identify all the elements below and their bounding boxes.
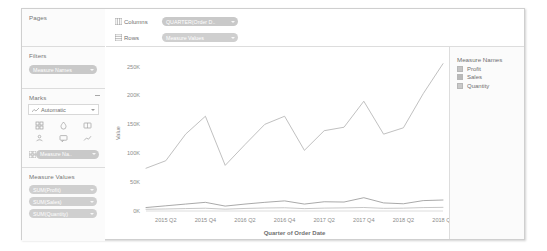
x-axis-tick-label: 2018 Q4: [432, 217, 449, 223]
path-button[interactable]: [75, 132, 99, 145]
legend-item[interactable]: Sales: [450, 72, 524, 81]
label-button[interactable]: [75, 119, 99, 132]
y-axis-tick-label: 250K: [127, 64, 140, 70]
columns-pill-quarter-order-date[interactable]: QUARTER(Order D..: [162, 17, 238, 26]
measure-value-pill-label: SUM(Profit): [33, 187, 61, 193]
filter-pill-measure-names[interactable]: Measure Names: [29, 65, 97, 74]
measure-value-pill[interactable]: SUM(Profit): [29, 185, 97, 194]
tooltip-button[interactable]: [52, 132, 76, 145]
rows-shelf-label: Rows: [124, 35, 162, 41]
color-swatch-icon: [28, 150, 36, 158]
marks-color-pill-label: Measure Na..: [40, 151, 72, 157]
color-button[interactable]: [28, 119, 52, 132]
columns-icon: [114, 18, 122, 26]
pages-card: Pages: [22, 9, 105, 47]
rows-shelf[interactable]: Rows Measure Values: [114, 31, 520, 44]
color-legend: Measure Names Profit Sales Quantity: [449, 47, 524, 239]
x-axis-tick-label: 2018 Q2: [393, 217, 414, 223]
legend-swatch: [457, 66, 463, 72]
measure-value-pill-label: SUM(Sales): [33, 199, 62, 205]
legend-swatch: [457, 74, 463, 80]
measure-values-card-title: Measure Values: [22, 168, 105, 180]
chevron-down-icon[interactable]: [90, 213, 94, 215]
legend-item-label: Sales: [467, 74, 482, 80]
pages-card-title: Pages: [22, 9, 105, 21]
tableau-worksheet-window: Pages Filters Measure Names Marks Automa…: [21, 8, 525, 240]
measure-value-pill[interactable]: SUM(Sales): [29, 197, 97, 206]
chevron-down-icon[interactable]: [90, 69, 94, 71]
marks-card-title: Marks: [22, 89, 105, 101]
legend-item-label: Profit: [467, 66, 481, 72]
legend-item[interactable]: Quantity: [450, 80, 524, 89]
marks-encoding-buttons: [28, 119, 99, 145]
marks-type-label: Automatic: [41, 107, 66, 113]
line-chart[interactable]: 0K50K100K150K200K250KValue2015 Q22015 Q4…: [106, 47, 449, 239]
marks-type-dropdown[interactable]: Automatic: [28, 104, 99, 115]
shelf-area: Columns QUARTER(Order D.. Rows Measure V…: [106, 9, 524, 47]
series-line[interactable]: [146, 64, 443, 169]
detail-button[interactable]: [28, 132, 52, 145]
measure-value-pill[interactable]: SUM(Quantity): [29, 209, 97, 218]
filters-card-title: Filters: [22, 47, 105, 59]
legend-swatch: [457, 83, 463, 89]
chevron-down-icon[interactable]: [90, 201, 94, 203]
rows-pill-measure-values[interactable]: Measure Values: [162, 33, 238, 42]
legend-item[interactable]: Profit: [450, 63, 524, 72]
legend-title: Measure Names: [450, 47, 524, 63]
line-mark-icon: [32, 108, 39, 113]
y-axis-title: Value: [115, 126, 121, 140]
series-line[interactable]: [146, 207, 443, 209]
chevron-down-icon[interactable]: [90, 189, 94, 191]
x-axis-tick-label: 2016 Q4: [274, 217, 295, 223]
worksheet-sidebar: Pages Filters Measure Names Marks Automa…: [22, 9, 105, 239]
y-axis-tick-label: 150K: [127, 121, 140, 127]
chevron-down-icon[interactable]: [92, 153, 96, 155]
marks-card: Marks Automatic: [22, 89, 105, 168]
measure-values-card: Measure Values SUM(Profit) SUM(Sales) SU…: [22, 168, 105, 241]
x-axis-tick-label: 2015 Q2: [155, 217, 176, 223]
filters-card: Filters Measure Names: [22, 47, 105, 89]
rows-pill-label: Measure Values: [166, 35, 204, 41]
y-axis-tick-label: 100K: [127, 150, 140, 156]
x-axis-tick-label: 2016 Q2: [234, 217, 255, 223]
chevron-down-icon[interactable]: [231, 37, 235, 39]
size-button[interactable]: [52, 119, 76, 132]
x-axis-tick-label: 2017 Q4: [353, 217, 374, 223]
marks-encoding-pill-row: Measure Na..: [28, 149, 99, 159]
marks-color-pill-measure-names[interactable]: Measure Na..: [36, 150, 99, 159]
chevron-down-icon[interactable]: [91, 109, 95, 111]
legend-item-label: Quantity: [467, 83, 489, 89]
series-line[interactable]: [146, 198, 443, 208]
y-axis-tick-label: 50K: [130, 179, 140, 185]
columns-pill-label: QUARTER(Order D..: [166, 19, 215, 25]
x-axis-tick-label: 2017 Q2: [313, 217, 334, 223]
x-axis-title: Quarter of Order Date: [264, 230, 326, 236]
filter-pill-label: Measure Names: [33, 67, 72, 73]
columns-shelf-label: Columns: [124, 19, 162, 25]
y-axis-tick-label: 200K: [127, 92, 140, 98]
measure-value-pill-label: SUM(Quantity): [33, 211, 68, 217]
visualization-canvas[interactable]: 0K50K100K150K200K250KValue2015 Q22015 Q4…: [106, 47, 449, 239]
rows-icon: [114, 34, 122, 42]
y-axis-tick-label: 0K: [133, 208, 140, 214]
marks-collapse-icon[interactable]: [95, 95, 100, 96]
x-axis-tick-label: 2015 Q4: [195, 217, 216, 223]
columns-shelf[interactable]: Columns QUARTER(Order D..: [114, 15, 520, 28]
chevron-down-icon[interactable]: [231, 21, 235, 23]
